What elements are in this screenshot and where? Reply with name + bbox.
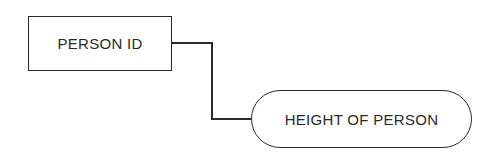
height-of-person-label: HEIGHT OF PERSON — [285, 111, 439, 128]
person-id-box: PERSON ID — [28, 16, 172, 71]
person-id-label: PERSON ID — [57, 35, 142, 52]
height-of-person-pill: HEIGHT OF PERSON — [251, 90, 472, 148]
person-id-to-height-connector — [172, 43, 251, 119]
